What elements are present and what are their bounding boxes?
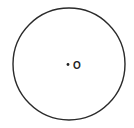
center-point — [67, 63, 70, 66]
diagram-canvas: O — [0, 0, 134, 128]
center-label: O — [73, 60, 81, 71]
